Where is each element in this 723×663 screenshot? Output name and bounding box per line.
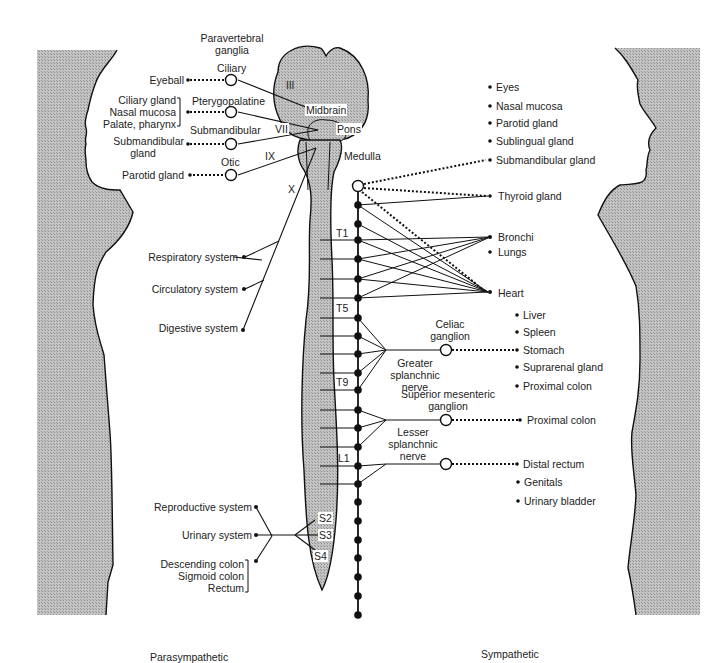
label-line: ganglion [420, 330, 480, 342]
target-submandibular-gland: Submandibular gland [102, 135, 184, 159]
label-line: nerve [378, 450, 448, 462]
caption-sympathetic: Sympathetic [481, 648, 539, 660]
target-eyeball: Eyeball [100, 74, 184, 86]
target-sigmoid-colon: Sigmoid colon [150, 570, 244, 582]
target-suprarenal-gland: Suprarenal gland [523, 361, 603, 373]
label-midbrain: Midbrain [305, 104, 347, 116]
target-proximal-colon-1: Proximal colon [523, 380, 592, 392]
target-lungs: Lungs [498, 246, 527, 258]
target-submandibular-gland-sym: Submandibular gland [496, 154, 595, 166]
level-T5: T5 [336, 302, 348, 314]
target-sublingual-gland: Sublingual gland [496, 135, 574, 147]
ganglion-submandibular: Submandibular [190, 124, 261, 136]
label-line: Greater [380, 357, 450, 369]
lesser-splanchnic-nerve-label: Lesser splanchnic nerve [378, 426, 448, 462]
target-eyes: Eyes [496, 81, 519, 93]
level-T1: T1 [336, 227, 348, 239]
target-parotid-gland-sym: Parotid gland [496, 117, 558, 129]
target-line: Submandibular [102, 135, 184, 147]
target-group-pterygopalatine: Ciliary gland Nasal mucosa Palate, phary… [90, 94, 176, 130]
target-liver: Liver [523, 309, 546, 321]
target-nasal-mucosa: Nasal mucosa [90, 106, 176, 118]
level-S3: S3 [318, 529, 333, 541]
level-T9: T9 [336, 376, 348, 388]
target-urinary-system: Urinary system [130, 529, 252, 541]
ganglion-otic: Otic [221, 156, 240, 168]
target-group-colon: Descending colon Sigmoid colon Rectum [150, 558, 244, 594]
target-palate-pharynx: Palate, pharynx [90, 118, 176, 130]
target-thyroid-gland: Thyroid gland [498, 190, 562, 202]
target-genitals: Genitals [524, 476, 563, 488]
target-urinary-bladder: Urinary bladder [524, 495, 596, 507]
label-pons: Pons [336, 123, 362, 135]
label-line: Superior mesenteric [396, 388, 500, 400]
target-nasal-mucosa-sym: Nasal mucosa [496, 100, 563, 112]
label-line: Celiac [420, 318, 480, 330]
nerve-III: III [286, 80, 294, 92]
label-line: splanchnic [378, 438, 448, 450]
target-circulatory-system: Circulatory system [130, 283, 238, 295]
target-distal-rectum: Distal rectum [523, 458, 584, 470]
target-line: gland [102, 147, 184, 159]
label-line: splanchnic [380, 369, 450, 381]
target-digestive-system: Digestive system [130, 322, 238, 334]
paravertebral-ganglia-title: Paravertebral ganglia [200, 32, 264, 56]
ganglion-pterygopalatine: Pterygopalatine [192, 95, 265, 107]
target-ciliary-gland: Ciliary gland [90, 94, 176, 106]
title-line: ganglia [200, 44, 264, 56]
target-reproductive-system: Reproductive system [130, 501, 252, 513]
celiac-ganglion-label: Celiac ganglion [420, 318, 480, 342]
label-medulla: Medulla [344, 150, 381, 162]
target-proximal-colon-2: Proximal colon [527, 414, 596, 426]
target-spleen: Spleen [523, 326, 556, 338]
ganglion-ciliary: Ciliary [217, 62, 246, 74]
superior-mesenteric-ganglion-label: Superior mesenteric ganglion [396, 388, 500, 412]
target-bronchi: Bronchi [498, 231, 534, 243]
nerve-IX: IX [265, 150, 275, 162]
caption-parasympathetic: Parasympathetic [150, 651, 228, 663]
target-heart: Heart [498, 287, 524, 299]
level-S4: S4 [313, 550, 328, 562]
title-line: Paravertebral [200, 32, 264, 44]
target-parotid-gland: Parotid gland [100, 169, 184, 181]
nerve-X: X [288, 183, 295, 195]
level-L1: L1 [338, 452, 350, 464]
nerve-VII: VII [274, 123, 289, 135]
label-line: ganglion [396, 400, 500, 412]
target-rectum: Rectum [150, 582, 244, 594]
right-head-silhouette [598, 48, 700, 615]
label-line: Lesser [378, 426, 448, 438]
target-descending-colon: Descending colon [150, 558, 244, 570]
target-stomach: Stomach [523, 344, 564, 356]
target-respiratory-system: Respiratory system [130, 251, 238, 263]
level-S2: S2 [318, 512, 333, 524]
